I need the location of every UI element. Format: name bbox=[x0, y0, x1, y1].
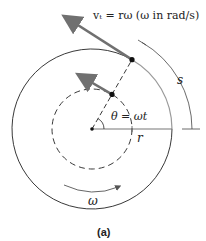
inner-velocity-arrow bbox=[84, 78, 112, 94]
center-point bbox=[90, 127, 94, 131]
radius-label: r bbox=[137, 132, 143, 144]
rotation-diagram bbox=[0, 0, 206, 241]
outer-point bbox=[129, 57, 134, 62]
rotation-arrow bbox=[64, 185, 118, 192]
omega-label: ω bbox=[88, 195, 98, 207]
arc-label: s bbox=[177, 74, 183, 86]
figure-caption: (a) bbox=[97, 226, 110, 238]
angle-label: θ = ωt bbox=[111, 111, 147, 122]
arc-length-s bbox=[142, 42, 192, 129]
angle-arc bbox=[98, 119, 104, 129]
inner-point bbox=[109, 92, 114, 97]
velocity-label: vₜ = rω (ω in rad/s) bbox=[93, 10, 199, 21]
tangential-velocity-arrow bbox=[70, 20, 132, 60]
